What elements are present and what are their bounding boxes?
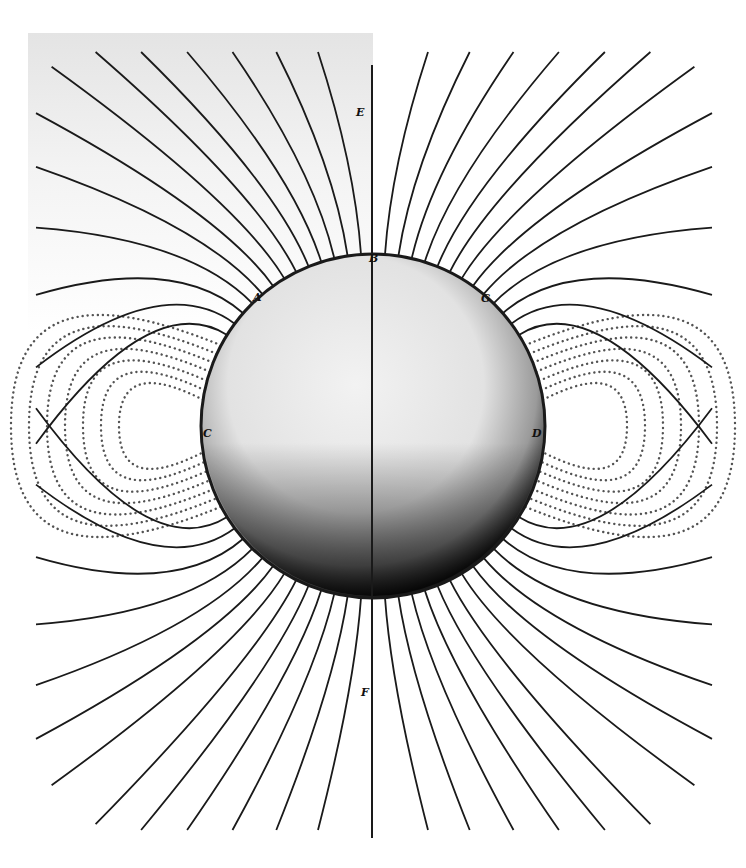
field-line — [473, 566, 712, 739]
label-a: A — [252, 291, 262, 304]
field-line — [462, 573, 695, 785]
field-line — [385, 598, 428, 830]
field-line — [494, 549, 712, 625]
dotted-arc — [529, 326, 717, 526]
field-line — [503, 278, 712, 313]
field-line — [36, 549, 252, 625]
field-line — [494, 228, 712, 304]
field-line — [187, 590, 321, 830]
dotted-arc — [541, 372, 645, 480]
label-f: F — [360, 686, 370, 699]
field-line — [519, 408, 712, 528]
field-line — [52, 573, 285, 785]
dotted-arc — [29, 326, 217, 526]
dotted-arcs-right — [525, 315, 735, 537]
field-line — [141, 586, 309, 831]
field-line — [462, 67, 695, 279]
label-e: E — [355, 106, 365, 119]
field-line — [437, 586, 605, 831]
field-line — [36, 566, 273, 739]
label-g: G — [481, 292, 490, 305]
field-line — [412, 52, 514, 258]
label-c: C — [203, 427, 212, 440]
dotted-arc — [119, 383, 203, 469]
dotted-arcs-left — [11, 315, 221, 537]
field-line — [36, 408, 227, 528]
dotted-arc — [101, 372, 205, 480]
field-line — [473, 113, 712, 286]
field-line — [503, 539, 712, 574]
field-line — [318, 598, 361, 830]
field-line — [425, 590, 559, 830]
sphere-field-diagram: E B A G C D F — [0, 0, 746, 868]
field-line — [36, 539, 243, 574]
field-line — [96, 580, 297, 824]
field-line — [519, 324, 712, 444]
label-d: D — [531, 427, 542, 440]
field-line — [450, 580, 651, 824]
label-b: B — [368, 252, 378, 265]
dotted-arc — [543, 383, 627, 469]
